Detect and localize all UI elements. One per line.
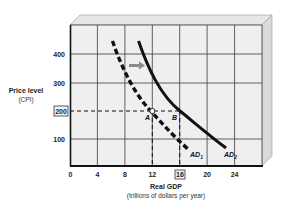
x-tick-0: 0 (69, 171, 73, 178)
box-right-face (262, 15, 272, 166)
x-tick-20: 20 (203, 171, 211, 178)
y-tick-300: 300 (53, 80, 65, 87)
point-a-label: A (144, 114, 150, 121)
x-tick-24: 24 (231, 171, 239, 178)
y-axis-subtitle: (CPI) (18, 96, 33, 104)
x-axis-title: Real GDP (150, 183, 182, 190)
y-tick-200: 200 (55, 108, 67, 115)
point-b-label: B (172, 114, 177, 121)
y-tick-100: 100 (53, 136, 65, 143)
x-tick-16: 16 (176, 171, 184, 178)
y-tick-400: 400 (53, 51, 65, 58)
point-a-marker (150, 108, 155, 113)
y-axis-title: Price level (9, 87, 44, 94)
box-top-face (70, 15, 272, 25)
x-tick-12: 12 (148, 171, 156, 178)
aggregate-demand-chart: A B AD1 AD2 400 300 200 100 0 4 8 12 16 … (0, 0, 283, 206)
x-axis-subtitle: (trillions of dollars per year) (127, 192, 205, 200)
x-tick-4: 4 (95, 171, 99, 178)
x-tick-8: 8 (123, 171, 127, 178)
